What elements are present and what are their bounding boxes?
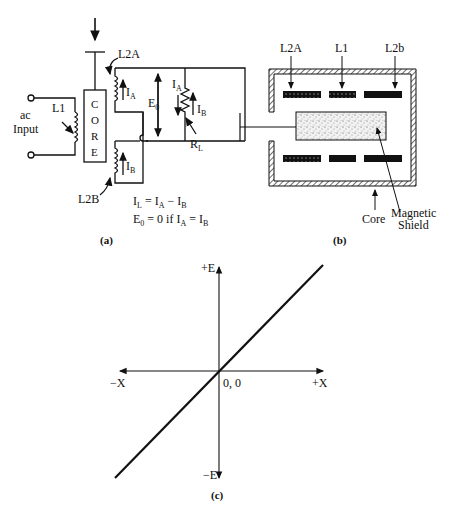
caption-c: (c) (211, 489, 224, 502)
panel-c-graph (115, 265, 323, 478)
minus-e-label: −E (203, 468, 217, 482)
minus-x-label: −X (110, 376, 126, 390)
origin-label: 0, 0 (223, 376, 241, 390)
l1-coil-label: L1 (335, 41, 348, 55)
l2b-coil-label: L2b (385, 41, 404, 55)
l1-label: L1 (52, 101, 65, 115)
coil-l2b-top (364, 91, 402, 98)
caption-a: (a) (100, 234, 113, 247)
input-label: Input (13, 122, 39, 136)
core-letter-o: O (91, 114, 99, 126)
core-letter-r: R (91, 130, 99, 142)
panel-b-cross-section (240, 56, 416, 212)
shield-label: Shield (398, 218, 429, 232)
coil-l2a-top (283, 91, 321, 98)
l2a-coil-label: L2A (280, 41, 302, 55)
rl-label: RL (190, 137, 203, 153)
ia-coil-label: IA (126, 85, 136, 101)
panel-a-labels: ac Input L1 C O R E L2A L2B IA IB E0 IA … (13, 47, 208, 247)
caption-b: (b) (333, 234, 347, 247)
core-letter-e: E (91, 146, 98, 158)
coil-l2a-bottom (283, 155, 321, 162)
equation-il: IL = IA − IB (133, 194, 187, 210)
equation-e0: E0 = 0 if IA = IB (133, 212, 208, 228)
ib-coil-label: IB (126, 159, 135, 175)
coil-l1-bottom (329, 155, 356, 162)
ia-load-label: IA (172, 77, 182, 93)
core-label: Core (362, 212, 385, 226)
coil-l2b-bottom (364, 155, 402, 162)
core-letter-c: C (91, 98, 98, 110)
lvdt-figure: ac Input L1 C O R E L2A L2B IA IB E0 IA … (0, 0, 449, 513)
plus-e-label: +E (201, 261, 215, 275)
ib-load-label: IB (197, 102, 206, 118)
coil-l1-top (329, 91, 356, 98)
plus-x-label: +X (312, 376, 328, 390)
l2b-label: L2B (78, 192, 99, 206)
ac-label: ac (20, 108, 31, 122)
l2a-label: L2A (118, 47, 140, 61)
